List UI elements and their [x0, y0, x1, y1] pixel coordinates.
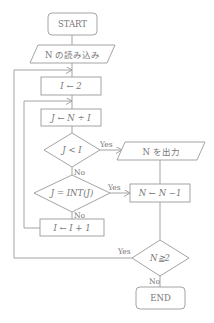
read-n-node: N の読み込み: [30, 45, 115, 63]
cond-j-int-yes-label: Yes: [107, 183, 121, 192]
calc-j-node: J ← N ÷ I: [41, 109, 101, 126]
end-label: END: [150, 293, 171, 303]
inc-i-node: I ← I + 1: [40, 219, 104, 236]
cond-n-ge-2-yes-label: Yes: [117, 247, 131, 256]
init-i-node: I ← 2: [41, 77, 101, 95]
start-node: START: [48, 13, 97, 35]
init-i-label: I ← 2: [59, 81, 81, 91]
read-n-label: N の読み込み: [45, 50, 100, 60]
cond-j-lt-i-yes-label: Yes: [99, 140, 113, 149]
cond-n-ge-2-node: N≧2 Yes No: [117, 240, 189, 286]
cond-n-ge-2-no-label: No: [149, 277, 161, 286]
cond-n-ge-2-label: N≧2: [149, 253, 170, 263]
cond-j-int-node: J = INT(J) Yes No: [34, 175, 121, 220]
start-label: START: [58, 19, 87, 29]
output-n-label: N を出力: [142, 147, 179, 157]
dec-n-node: N ← N −1: [130, 184, 190, 202]
cond-j-lt-i-no-label: No: [74, 168, 86, 177]
calc-j-label: J ← N ÷ I: [49, 113, 91, 123]
connectors: [14, 35, 160, 287]
output-n-node: N を出力: [117, 142, 205, 160]
flowchart: START N の読み込み I ← 2 J ← N ÷ I J < I Yes …: [0, 0, 214, 323]
inc-i-label: I ← I + 1: [52, 223, 90, 233]
cond-j-lt-i-label: J < I: [60, 145, 82, 155]
end-node: END: [136, 287, 185, 309]
cond-j-lt-i-node: J < I Yes No: [44, 133, 113, 177]
dec-n-label: N ← N −1: [138, 188, 182, 198]
cond-j-int-label: J = INT(J): [49, 188, 93, 198]
